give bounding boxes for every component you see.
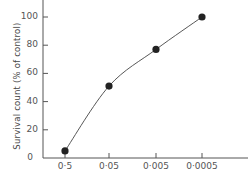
x-tick-label: 0·05 <box>89 161 129 171</box>
y-axis-label: Survival count (% of control) <box>12 16 24 156</box>
data-point-marker <box>152 46 159 53</box>
y-ticks <box>43 17 48 130</box>
data-point-marker <box>198 13 205 20</box>
data-point-marker <box>105 82 112 89</box>
y-tick-label: 0 <box>9 152 33 162</box>
y-tick-label: 80 <box>14 39 38 49</box>
y-tick-label: 60 <box>14 67 38 77</box>
x-ticks <box>65 153 202 158</box>
survival-curve <box>65 17 202 151</box>
survival-chart <box>0 0 250 179</box>
y-tick-label: 20 <box>14 124 38 134</box>
data-point-marker <box>61 147 68 154</box>
y-tick-label: 40 <box>14 96 38 106</box>
x-tick-label: 0·005 <box>136 161 176 171</box>
x-tick-label: 0·5 <box>45 161 85 171</box>
y-tick-label: 100 <box>14 11 38 21</box>
x-tick-label: 0·0005 <box>182 161 222 171</box>
data-points <box>61 13 205 154</box>
